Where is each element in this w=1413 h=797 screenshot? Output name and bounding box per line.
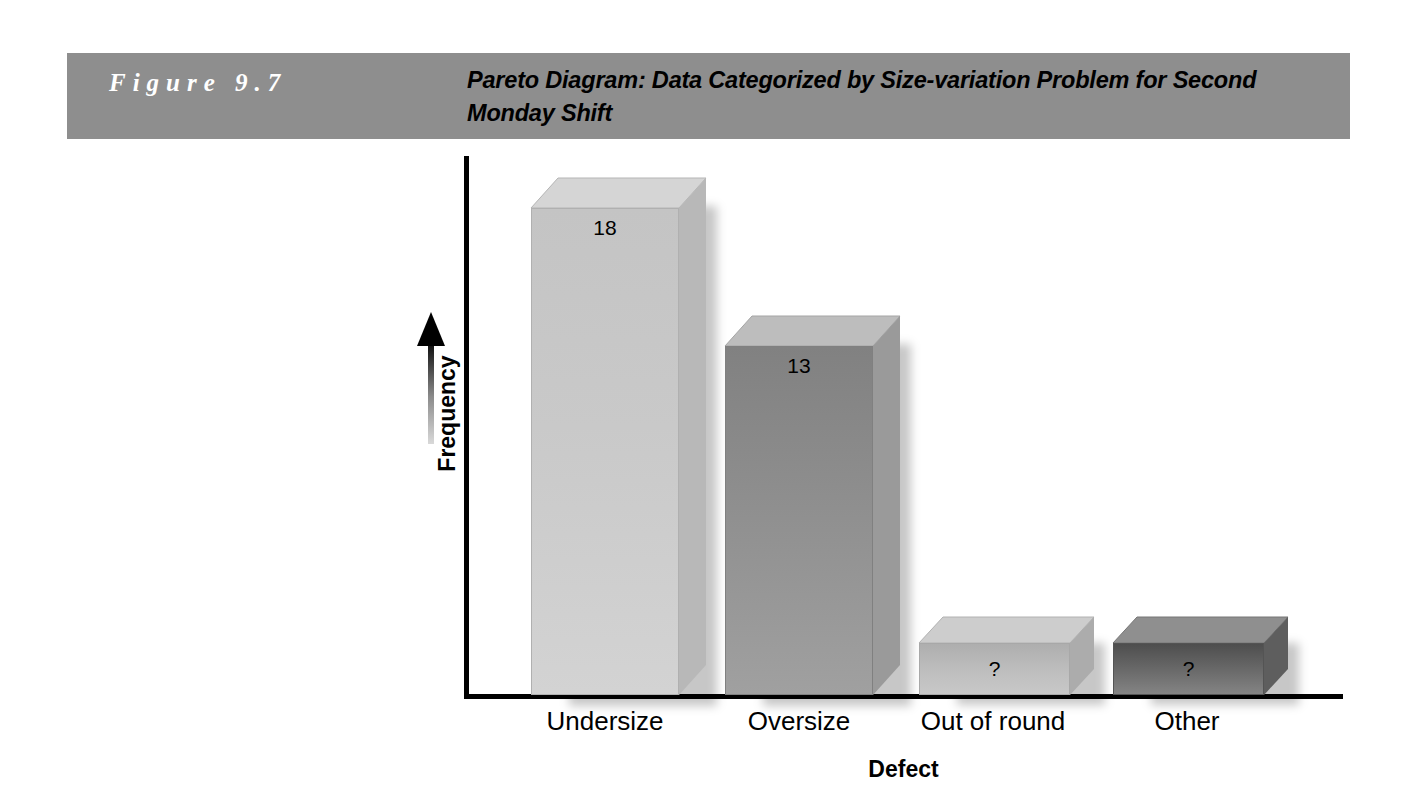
y-axis-line [464, 156, 469, 699]
y-axis-title: Frequency [434, 304, 461, 524]
bar-value-out-of-round: ? [919, 657, 1070, 681]
x-axis-title: Defect [464, 756, 1343, 783]
bar-side-face [679, 178, 706, 695]
bar-other: ? [1113, 617, 1288, 695]
bar-side-face [1264, 617, 1288, 695]
bar-front-face [531, 208, 679, 695]
bar-side-face [1070, 617, 1094, 695]
category-label-other: Other [1092, 706, 1282, 737]
pareto-chart: Frequency 18 13 [0, 0, 1413, 797]
category-label-oversize: Oversize [704, 706, 894, 737]
bar-value-other: ? [1113, 657, 1264, 681]
bar-top-face [1113, 617, 1288, 643]
bar-side-face [873, 316, 900, 695]
category-label-undersize: Undersize [510, 706, 700, 737]
bar-value-undersize: 18 [531, 216, 679, 240]
bar-front-face [725, 346, 873, 695]
bar-value-oversize: 13 [725, 354, 873, 378]
bar-undersize: 18 [531, 178, 706, 695]
bar-oversize: 13 [725, 316, 900, 695]
bar-top-face [919, 617, 1094, 643]
category-label-out-of-round: Out of round [898, 706, 1088, 737]
bar-out-of-round: ? [919, 617, 1094, 695]
